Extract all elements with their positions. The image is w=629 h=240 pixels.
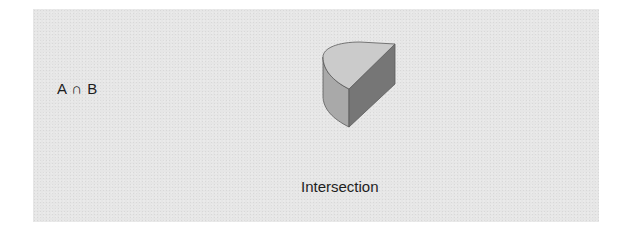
diagram-caption: Intersection xyxy=(301,178,379,195)
half-cylinder-shape xyxy=(318,38,402,134)
set-formula-label: A ∩ B xyxy=(57,80,98,97)
